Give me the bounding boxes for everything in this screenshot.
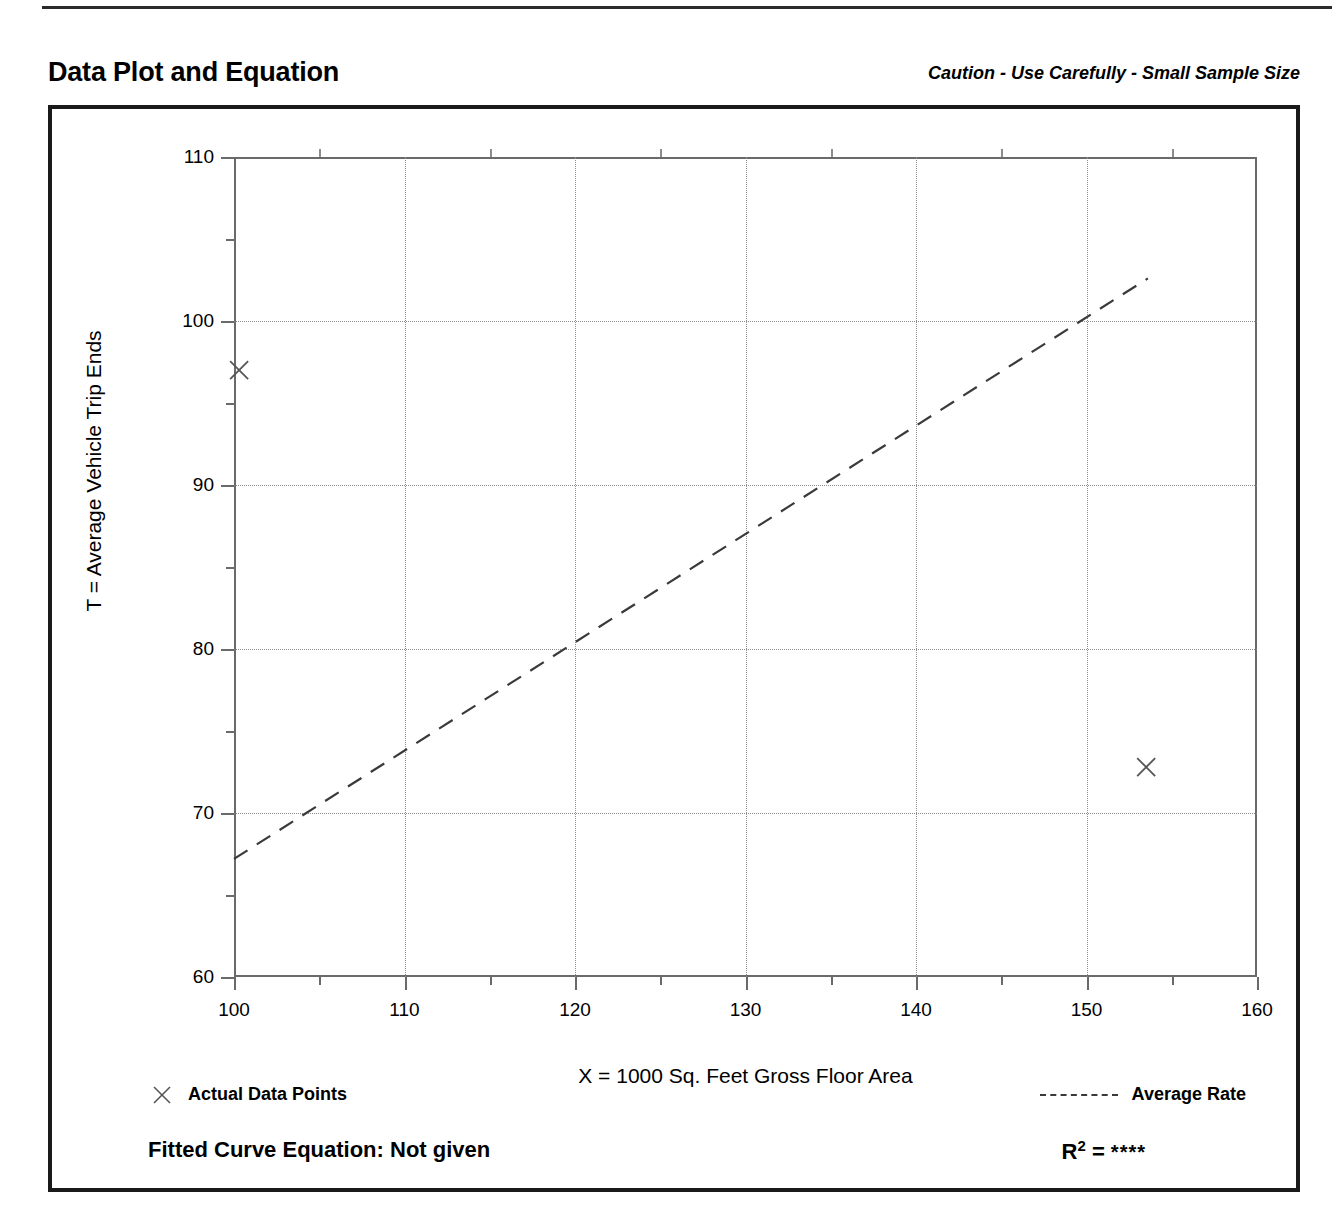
x-axis-tick [746,977,748,990]
gridline-vertical [575,157,576,977]
x-axis-tick-label: 120 [559,999,591,1021]
x-axis-tick-minor [1001,977,1003,985]
x-axis-tick-minor [1172,977,1174,985]
data-point-marker [1137,758,1155,776]
figure-page: Data Plot and Equation Caution - Use Car… [0,0,1336,1218]
x-axis-tick-minor [319,977,321,985]
x-axis-tick [916,977,918,990]
x-axis-tick-minor [660,977,662,985]
y-axis-tick [221,977,234,979]
fitted-curve-equation: Fitted Curve Equation: Not given [148,1137,490,1163]
y-axis-tick [221,485,234,487]
legend-entry-average-rate: Average Rate [1040,1084,1246,1105]
y-axis-tick [221,649,234,651]
y-axis-tick [221,321,234,323]
y-axis-tick-label: 90 [193,474,214,496]
data-point-marker [230,361,248,379]
legend-label-average-rate: Average Rate [1132,1084,1246,1105]
plot-wrapper: 60708090100110 100110120130140150160 X =… [52,109,1296,1188]
y-axis-tick-minor [226,731,234,733]
x-axis-tick-minor [490,977,492,985]
x-axis-tick-label: 150 [1071,999,1103,1021]
plot-area: 60708090100110 100110120130140150160 [234,157,1257,977]
x-axis-tick [405,977,407,990]
gridline-vertical [405,157,406,977]
y-axis-tick [221,157,234,159]
y-axis-tick-label: 100 [182,310,214,332]
y-axis-tick-label: 70 [193,802,214,824]
x-axis-tick-label: 110 [389,999,419,1021]
x-axis-tick-label: 160 [1241,999,1273,1021]
r-squared-value: R2 = **** [1062,1137,1146,1165]
y-axis-tick-minor [226,567,234,569]
r-squared-equals: = [1086,1139,1111,1164]
y-axis-tick [221,813,234,815]
gridline-horizontal [234,485,1257,486]
r-squared-exponent: 2 [1077,1137,1085,1154]
gridline-vertical [746,157,747,977]
y-axis-tick-label: 110 [184,146,214,168]
figure-header: Data Plot and Equation Caution - Use Car… [0,57,1336,99]
y-axis-tick-label: 80 [193,638,214,660]
r-squared-prefix: R [1062,1139,1078,1164]
x-axis-tick-minor-top [1001,149,1003,157]
x-axis-tick [1257,977,1259,990]
dashed-line-swatch [1040,1094,1118,1096]
top-divider-rule [42,6,1332,9]
x-axis-tick-minor-top [490,149,492,157]
gridline-vertical [916,157,917,977]
r-squared-stars: **** [1111,1141,1146,1163]
x-axis-tick-minor-top [319,149,321,157]
y-axis-tick-label: 60 [193,966,214,988]
equation-row: Fitted Curve Equation: Not given R2 = **… [52,1137,1296,1179]
x-axis-tick [575,977,577,990]
y-axis-tick-minor [226,239,234,241]
page-title: Data Plot and Equation [48,57,339,88]
y-axis-tick-minor [226,895,234,897]
x-axis-tick-label: 140 [900,999,932,1021]
y-axis-title: T = Average Vehicle Trip Ends [82,161,106,781]
figure-frame: 60708090100110 100110120130140150160 X =… [48,105,1300,1192]
x-axis-tick-minor [831,977,833,985]
x-marker-icon [152,1085,172,1105]
trend-line-average-rate [234,278,1148,859]
x-axis-tick [234,977,236,990]
gridline-horizontal [234,813,1257,814]
y-axis-tick-minor [226,403,234,405]
gridline-vertical [1087,157,1088,977]
gridline-horizontal [234,321,1257,322]
chart-legend: Actual Data Points Average Rate [52,1084,1296,1130]
legend-entry-data-points: Actual Data Points [152,1084,347,1105]
caution-note: Caution - Use Carefully - Small Sample S… [928,63,1300,84]
y-axis-line [234,157,236,977]
x-axis-tick [1087,977,1089,990]
x-axis-tick-minor-top [1172,149,1174,157]
x-axis-tick-minor-top [660,149,662,157]
x-axis-tick-minor-top [831,149,833,157]
x-axis-tick-label: 130 [730,999,762,1021]
plot-border-right [1255,157,1257,977]
x-axis-tick-label: 100 [218,999,250,1021]
gridline-horizontal [234,649,1257,650]
legend-label-data-points: Actual Data Points [188,1084,347,1105]
